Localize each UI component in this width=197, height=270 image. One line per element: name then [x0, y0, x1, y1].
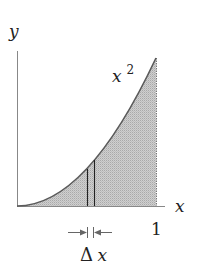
shaded-area-region	[17, 58, 156, 206]
delta-variable: x	[98, 245, 108, 265]
curve-label-base: x	[112, 66, 122, 86]
x-axis-label: x	[175, 196, 185, 216]
right-arrow-head-icon	[94, 230, 101, 236]
curve-label: x 2	[112, 63, 134, 86]
delta-x-dimension-arrows	[68, 227, 112, 238]
delta-symbol: Δ	[80, 244, 93, 265]
y-axis-label: y	[8, 21, 19, 41]
area-under-parabola-diagram: y x x 2 1 Δ x	[0, 0, 197, 270]
curve-label-exponent: 2	[127, 63, 135, 77]
x-tick-label-one: 1	[151, 219, 162, 239]
delta-x-label: Δ x	[80, 244, 108, 265]
left-arrow-head-icon	[80, 230, 87, 236]
